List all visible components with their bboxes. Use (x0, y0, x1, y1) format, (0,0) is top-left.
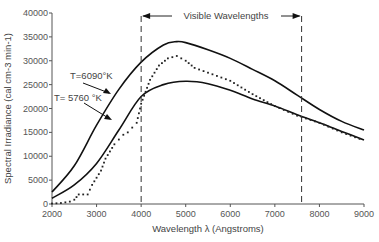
data-point (323, 124, 325, 126)
t5760-label: T= 5760 °K (54, 92, 103, 103)
data-point (148, 83, 150, 85)
data-point (98, 173, 100, 175)
x-tick-label: 7000 (265, 209, 285, 219)
data-point (207, 72, 209, 74)
data-point (109, 151, 111, 153)
series-group (51, 41, 364, 204)
x-tick-label: 6000 (220, 209, 240, 219)
arrowhead-right-icon (293, 13, 301, 19)
data-point (287, 111, 289, 113)
data-point (103, 162, 105, 164)
data-point (241, 87, 243, 89)
data-point (244, 89, 246, 91)
data-point (164, 60, 166, 62)
data-point (237, 84, 239, 86)
data-point (96, 177, 98, 179)
data-point (292, 113, 294, 115)
data-point (127, 131, 129, 133)
x-tick-label: 2000 (42, 209, 62, 219)
data-point (225, 78, 227, 80)
data-point (255, 95, 257, 97)
data-point (180, 57, 182, 59)
data-point (336, 130, 338, 132)
data-point (188, 62, 190, 64)
data-point (69, 201, 71, 203)
y-tick-label: 40000 (23, 8, 48, 18)
data-point (56, 202, 58, 204)
x-tick-label: 3000 (87, 209, 107, 219)
data-point (278, 107, 280, 109)
data-point (350, 135, 352, 137)
data-point (259, 97, 261, 99)
data-point (89, 189, 91, 191)
chart: 0500010000150002000025000300003500040000… (0, 0, 379, 242)
data-point (267, 101, 269, 103)
data-point (283, 109, 285, 111)
data-point (76, 196, 78, 198)
data-point (64, 201, 66, 203)
data-point (359, 138, 361, 140)
data-point (73, 199, 75, 201)
data-point (341, 131, 343, 133)
data-point (185, 60, 187, 62)
data-point (131, 127, 133, 129)
arrowhead-left-icon (142, 13, 150, 19)
data-point (140, 103, 142, 105)
data-point (327, 126, 329, 128)
data-point (332, 128, 334, 130)
data-point (319, 122, 321, 124)
y-tick-label: 5000 (28, 175, 48, 185)
data-point (137, 117, 139, 119)
data-point (87, 194, 89, 196)
x-tick-label: 5000 (176, 209, 196, 219)
data-point (151, 75, 153, 77)
data-point (122, 134, 124, 136)
data-point (229, 80, 231, 82)
data-point (105, 158, 107, 160)
data-point (314, 120, 316, 122)
data-point (100, 170, 102, 172)
x-tick-label: 9000 (354, 209, 374, 219)
x-axis-label: Wavelength λ (Angstroms) (152, 223, 264, 234)
data-point (171, 56, 173, 58)
y-axis-label: Spectral Irradiance (cal cm-3 min-1) (2, 33, 13, 184)
data-point (248, 91, 250, 93)
data-point (310, 119, 312, 121)
y-tick-label: 0 (43, 199, 48, 209)
data-point (93, 180, 95, 182)
x-tick-label: 8000 (309, 209, 329, 219)
data-point (82, 194, 84, 196)
data-point (136, 122, 138, 124)
data-point (176, 55, 178, 57)
data-point (191, 65, 193, 67)
y-tick-label: 35000 (23, 32, 48, 42)
data-point (263, 99, 265, 101)
data-point (345, 133, 347, 135)
data-point (156, 68, 158, 70)
y-tick-label: 15000 (23, 127, 48, 137)
y-tick-label: 10000 (23, 151, 48, 161)
series-line-0 (52, 41, 364, 192)
data-point (149, 79, 151, 81)
y-tick-label: 20000 (23, 104, 48, 114)
data-point (154, 72, 156, 74)
data-point (354, 136, 356, 138)
data-point (296, 115, 298, 117)
data-point (60, 202, 62, 204)
annotations: Visible WavelengthsT=6090°KT= 5760 °K (54, 10, 302, 204)
data-point (216, 75, 218, 77)
data-point (51, 203, 53, 205)
data-point (118, 139, 120, 141)
data-point (78, 194, 80, 196)
data-point (220, 77, 222, 79)
data-point (198, 69, 200, 71)
data-point (138, 112, 140, 114)
data-point (270, 103, 272, 105)
data-point (212, 73, 214, 75)
arrowhead-icon (104, 114, 112, 120)
data-point (252, 93, 254, 95)
data-point (167, 57, 169, 59)
data-point (274, 105, 276, 107)
data-point (91, 184, 93, 186)
y-tick-label: 25000 (23, 80, 48, 90)
